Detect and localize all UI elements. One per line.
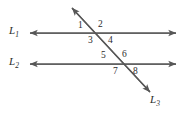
line-label-L3: L3 — [150, 94, 160, 108]
angle-label-7: 7 — [113, 67, 118, 77]
line-L3-transversal — [72, 8, 150, 92]
angle-label-3: 3 — [88, 36, 93, 46]
angle-label-8: 8 — [133, 67, 138, 77]
angle-label-5: 5 — [101, 51, 106, 61]
line-label-L1-subscript: 1 — [15, 30, 19, 39]
geometry-figure: L1 L2 L3 1 2 3 4 5 6 7 8 — [0, 0, 184, 114]
line-label-L2: L2 — [9, 56, 19, 70]
line-label-L1: L1 — [9, 25, 19, 39]
angle-label-1: 1 — [78, 21, 83, 31]
angle-label-2: 2 — [98, 20, 103, 30]
line-label-L2-subscript: 2 — [15, 61, 19, 70]
line-label-L3-subscript: 3 — [156, 99, 160, 108]
angle-label-6: 6 — [122, 50, 127, 60]
angle-label-4: 4 — [108, 36, 113, 46]
line-L3-lower-segment — [72, 8, 150, 92]
